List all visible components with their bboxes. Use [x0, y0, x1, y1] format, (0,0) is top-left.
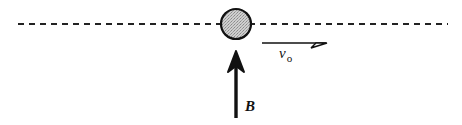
field-label: B: [245, 98, 255, 115]
particle-circle: [221, 9, 251, 39]
velocity-arrow: [262, 43, 327, 48]
velocity-subscript: o: [287, 52, 293, 64]
velocity-label: vo: [279, 45, 292, 62]
magnetic-field-arrow: [228, 51, 244, 118]
diagram-canvas: [0, 0, 462, 125]
velocity-symbol: v: [279, 45, 286, 61]
